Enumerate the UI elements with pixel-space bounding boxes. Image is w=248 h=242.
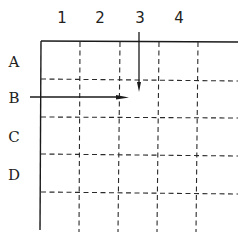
row-label-d: D — [8, 166, 20, 184]
grid-vertical-line — [79, 42, 80, 232]
row-label-c: C — [8, 128, 19, 146]
grid-vertical-line — [118, 42, 120, 232]
row-label-b: B — [8, 89, 19, 107]
grid-horizontal-line — [41, 192, 238, 194]
grid-horizontal-line — [41, 154, 238, 156]
grid-left-border — [40, 41, 41, 230]
column-label-4: 4 — [174, 9, 184, 27]
grid-vertical-line — [196, 42, 198, 232]
column-label-1: 1 — [57, 9, 67, 27]
column-label-3: 3 — [135, 9, 145, 27]
arrow-down-icon — [137, 82, 141, 92]
arrow-right-icon — [116, 95, 129, 100]
grid-horizontal-line — [41, 117, 238, 118]
column-label-2: 2 — [95, 9, 105, 27]
row-label-a: A — [8, 53, 20, 71]
grid-diagram: 1 2 3 4 A B C D — [0, 0, 248, 242]
grid-vertical-line — [157, 42, 159, 232]
